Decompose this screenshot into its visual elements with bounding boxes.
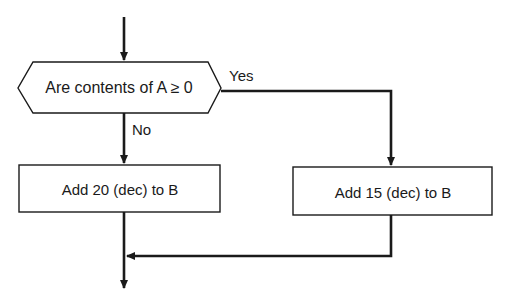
yes-branch-arrow (221, 91, 391, 165)
merge-arrow (127, 215, 391, 256)
process-no-label: Add 20 (dec) to B (62, 182, 179, 197)
no-label: No (132, 122, 151, 137)
process-yes-label: Add 15 (dec) to B (335, 185, 452, 200)
yes-label: Yes (229, 68, 253, 83)
flowchart-canvas (0, 0, 507, 297)
decision-label: Are contents of A ≥ 0 (45, 80, 193, 96)
